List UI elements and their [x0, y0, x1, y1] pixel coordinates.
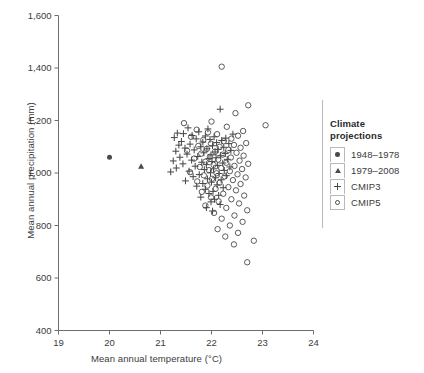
legend-item-cmip3[interactable]: CMIP3 [330, 178, 424, 194]
x-axis-title: Mean annual temperature (°C) [0, 353, 313, 364]
filled-triangle-icon [330, 163, 345, 178]
x-tick-label: 19 [53, 337, 64, 348]
legend-title: Climate projections [330, 118, 424, 141]
plus-icon [330, 179, 345, 194]
legend: Climate projections 1948–1978 1979–2008 … [330, 118, 424, 210]
series-1948-1978 [107, 155, 112, 160]
open-circle-icon [330, 195, 345, 210]
x-tick-label: 24 [308, 337, 319, 348]
legend-item-1948-1978[interactable]: 1948–1978 [330, 146, 424, 162]
y-tick-label: 800 [36, 220, 52, 231]
legend-item-label: 1979–2008 [351, 165, 399, 176]
y-tick-label: 1,400 [28, 62, 52, 73]
series-1979-2008 [138, 163, 144, 169]
legend-title-line1: Climate [330, 118, 424, 130]
x-tick-label: 22 [206, 337, 217, 348]
scatter-figure: 4006008001,0001,2001,4001,60019202122232… [0, 0, 424, 373]
x-tick-label: 20 [104, 337, 115, 348]
y-tick-label: 400 [36, 325, 52, 336]
filled-circle-icon [330, 147, 345, 162]
legend-item-cmip5[interactable]: CMIP5 [330, 194, 424, 210]
y-tick-label: 1,600 [28, 10, 52, 21]
legend-item-label: 1948–1978 [351, 149, 399, 160]
y-tick-label: 600 [36, 272, 52, 283]
legend-item-1979-2008[interactable]: 1979–2008 [330, 162, 424, 178]
legend-item-label: CMIP3 [351, 181, 381, 192]
x-tick-label: 23 [257, 337, 268, 348]
x-tick-label: 21 [155, 337, 166, 348]
y-axis-title: Mean annual precipitation (mm) [25, 86, 36, 256]
legend-title-line2: projections [330, 130, 424, 142]
series-cmip5 [181, 64, 268, 265]
legend-item-label: CMIP5 [351, 197, 381, 208]
